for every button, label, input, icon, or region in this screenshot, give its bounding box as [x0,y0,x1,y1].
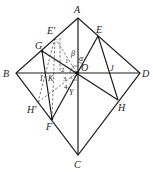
label-angle-3: 3 [63,75,67,83]
label-k: K [47,74,54,83]
label-i: I [39,74,43,83]
label-b: B [3,68,9,79]
label-a: A [73,4,81,15]
label-e-prime: E' [46,25,56,36]
angle-arc-3 [71,76,72,79]
label-j: J [110,64,114,73]
geometry-diagram: A B C D O E E' G H H' F I K J Y α β 1 2 … [0,0,153,173]
point-o-dot [75,71,79,75]
label-h: H [117,102,126,113]
label-beta: β [70,49,75,58]
label-g: G [35,40,42,51]
label-angle-1: 1 [65,57,69,65]
label-o: O [81,62,88,73]
label-d: D [141,68,150,79]
angle-arc-1 [72,66,77,67]
point-f-dot [51,118,53,120]
label-c: C [74,159,81,170]
label-angle-4: 4 [64,83,68,91]
label-e: E [95,24,102,35]
label-y: Y [69,88,75,97]
label-angle-2: 2 [61,66,65,74]
label-h-prime: H' [26,104,37,115]
label-f: F [45,121,53,132]
segment-eh [98,36,118,100]
